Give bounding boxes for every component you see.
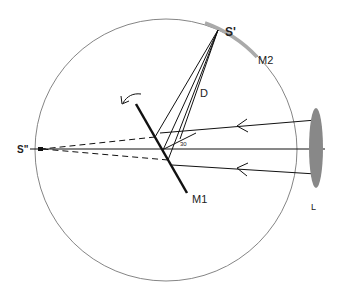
virtual-ray-bottom — [42, 149, 168, 160]
label-s-double-prime: S" — [17, 144, 29, 155]
optics-diagram: S' M2 D 30 S" M1 L — [0, 0, 340, 292]
circle-tick-right — [226, 263, 228, 265]
reflected-ray-3 — [168, 30, 218, 160]
label-m1: M1 — [192, 193, 207, 205]
label-d: D — [200, 87, 208, 99]
virtual-ray-top — [42, 137, 155, 149]
lens-l — [309, 108, 323, 188]
label-l: L — [311, 202, 316, 212]
circle-tick-left — [97, 263, 99, 265]
reflected-ray-2 — [163, 30, 218, 150]
s-double-prime-point — [38, 147, 43, 151]
label-m2: M2 — [258, 54, 273, 66]
label-angle: 30 — [180, 141, 187, 147]
label-s-prime: S' — [225, 25, 236, 39]
rotation-arrow-icon — [123, 94, 141, 103]
incoming-ray-bottom — [172, 165, 316, 174]
